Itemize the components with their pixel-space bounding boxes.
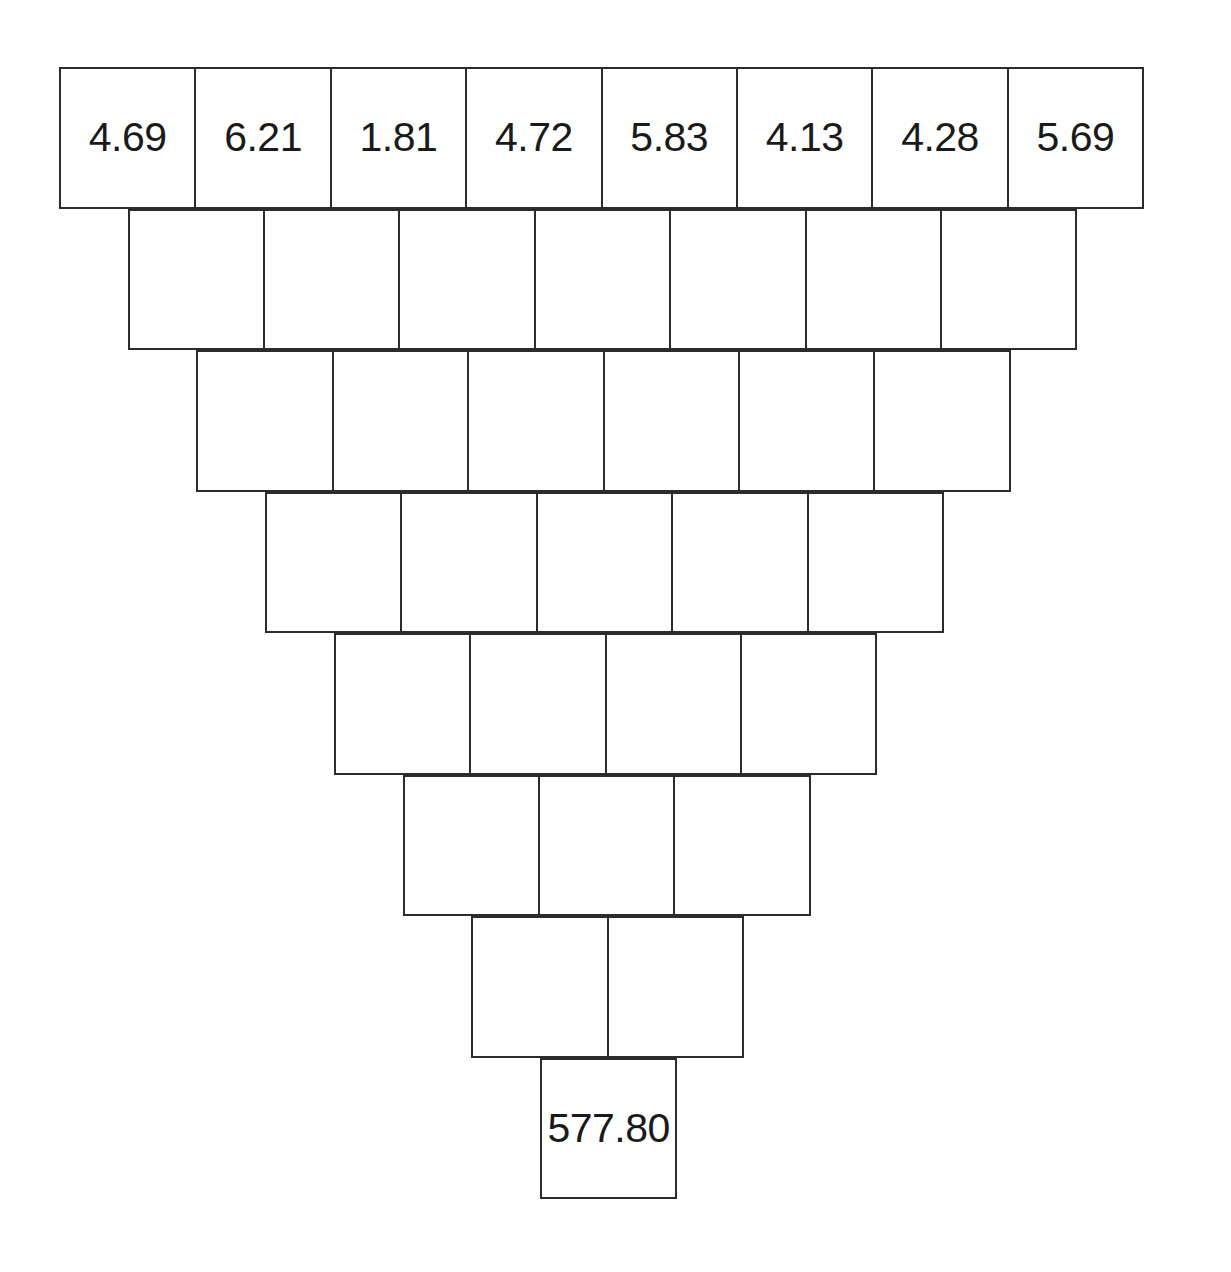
pyramid-cell-value: 5.83 <box>630 117 708 158</box>
pyramid-cell-r4-c1[interactable] <box>469 633 606 775</box>
pyramid-cell-r1-c3[interactable] <box>534 209 671 351</box>
pyramid-cell-r5-c2[interactable] <box>673 775 810 917</box>
pyramid-cell-r5-c0[interactable] <box>403 775 540 917</box>
pyramid-cell-r3-c4[interactable] <box>807 492 944 634</box>
pyramid-cell-r0-c7[interactable]: 5.69 <box>1007 67 1144 209</box>
pyramid-cell-r0-c4[interactable]: 5.83 <box>601 67 738 209</box>
pyramid-cell-r1-c0[interactable] <box>128 209 265 351</box>
pyramid-canvas: 4.696.211.814.725.834.134.285.69577.80 <box>0 0 1231 1272</box>
pyramid-cell-r2-c3[interactable] <box>603 350 740 492</box>
pyramid-row-6 <box>471 916 744 1058</box>
pyramid-cell-r0-c1[interactable]: 6.21 <box>194 67 331 209</box>
pyramid-cell-r1-c6[interactable] <box>940 209 1077 351</box>
pyramid-cell-r5-c1[interactable] <box>538 775 675 917</box>
pyramid-cell-r0-c2[interactable]: 1.81 <box>330 67 467 209</box>
pyramid-row-3 <box>265 492 944 634</box>
pyramid-cell-r3-c3[interactable] <box>671 492 808 634</box>
pyramid-row-4 <box>334 633 878 775</box>
pyramid-row-5 <box>403 775 811 917</box>
pyramid-cell-value: 4.28 <box>901 117 979 158</box>
pyramid-cell-r0-c5[interactable]: 4.13 <box>736 67 873 209</box>
pyramid-cell-r6-c1[interactable] <box>607 916 744 1058</box>
pyramid-cell-r1-c2[interactable] <box>398 209 535 351</box>
pyramid-cell-r2-c4[interactable] <box>738 350 875 492</box>
pyramid-row-1 <box>128 209 1078 351</box>
pyramid-cell-r1-c4[interactable] <box>669 209 806 351</box>
pyramid-cell-r1-c1[interactable] <box>263 209 400 351</box>
pyramid-cell-r0-c0[interactable]: 4.69 <box>59 67 196 209</box>
pyramid-cell-r0-c6[interactable]: 4.28 <box>871 67 1008 209</box>
pyramid-cell-r7-c0[interactable]: 577.80 <box>540 1058 677 1200</box>
pyramid-cell-r2-c0[interactable] <box>196 350 333 492</box>
pyramid-cell-r2-c5[interactable] <box>873 350 1010 492</box>
pyramid-cell-r3-c0[interactable] <box>265 492 402 634</box>
pyramid-cell-r2-c1[interactable] <box>332 350 469 492</box>
pyramid-cell-r4-c3[interactable] <box>740 633 877 775</box>
pyramid-cell-r0-c3[interactable]: 4.72 <box>465 67 602 209</box>
pyramid-cell-r2-c2[interactable] <box>467 350 604 492</box>
pyramid-cell-value: 577.80 <box>547 1108 669 1149</box>
pyramid-row-7: 577.80 <box>540 1058 677 1200</box>
pyramid-cell-value: 5.69 <box>1037 117 1115 158</box>
pyramid-cell-value: 4.13 <box>766 117 844 158</box>
pyramid-cell-value: 4.69 <box>89 117 167 158</box>
pyramid-cell-value: 4.72 <box>495 117 573 158</box>
pyramid-cell-value: 1.81 <box>360 117 438 158</box>
pyramid-cell-r6-c0[interactable] <box>471 916 608 1058</box>
pyramid-row-0: 4.696.211.814.725.834.134.285.69 <box>59 67 1144 209</box>
pyramid-row-2 <box>196 350 1010 492</box>
pyramid-cell-r4-c2[interactable] <box>605 633 742 775</box>
pyramid-cell-r4-c0[interactable] <box>334 633 471 775</box>
pyramid-cell-r3-c1[interactable] <box>400 492 537 634</box>
pyramid-cell-r1-c5[interactable] <box>805 209 942 351</box>
pyramid-cell-r3-c2[interactable] <box>536 492 673 634</box>
pyramid-cell-value: 6.21 <box>224 117 302 158</box>
